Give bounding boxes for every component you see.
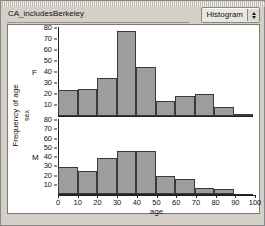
histogram-bar[interactable] xyxy=(156,176,176,195)
y-tick-label: 70 xyxy=(44,126,52,134)
histogram-bar[interactable] xyxy=(97,78,117,117)
plot-type-dropdown[interactable]: Histogram xyxy=(201,7,260,23)
y-tick-mark xyxy=(54,61,57,62)
y-tick-mark xyxy=(54,129,57,130)
y-axis-M: 1020304050607080M xyxy=(32,119,58,195)
histogram-bar[interactable] xyxy=(58,167,78,194)
chevron-down-icon xyxy=(252,16,256,19)
histogram-bar[interactable] xyxy=(136,67,156,117)
y-tick-label: 20 xyxy=(44,172,52,180)
histogram-bar[interactable] xyxy=(234,114,254,116)
chevron-up-icon xyxy=(252,12,256,15)
y-tick-label: 80 xyxy=(44,116,52,124)
x-tick-label: 50 xyxy=(152,199,160,207)
x-axis: age 0102030405060708090100 xyxy=(58,195,255,215)
y-axis-F: 1020304050607080F xyxy=(32,27,58,117)
y-tick-label: 50 xyxy=(44,57,52,65)
histogram-window: CA_includesBerkeley Histogram Frequency … xyxy=(0,0,265,226)
facet-panel-F: 1020304050607080F xyxy=(32,27,257,117)
x-tick-label: 90 xyxy=(231,199,239,207)
y-tick-mark xyxy=(54,94,57,95)
histogram-bar[interactable] xyxy=(117,31,137,116)
y-tick-label: 70 xyxy=(44,35,52,43)
x-tick-label: 100 xyxy=(249,199,262,207)
histogram-bar[interactable] xyxy=(58,90,78,116)
y-tick-mark xyxy=(54,83,57,84)
title-underline xyxy=(7,22,189,23)
group-axis-title-text: sex xyxy=(23,110,30,121)
plot-type-stepper[interactable] xyxy=(247,9,259,21)
y-tick-label: 10 xyxy=(44,101,52,109)
y-tick-label: 50 xyxy=(44,144,52,152)
x-tick-label: 70 xyxy=(192,199,200,207)
page-title: CA_includesBerkeley xyxy=(8,9,84,18)
plot-panel: Frequency of age sex 1020304050607080F 1… xyxy=(7,24,260,214)
y-tick-label: 80 xyxy=(44,24,52,32)
y-tick-mark xyxy=(54,175,57,176)
facet-panel-M: 1020304050607080M xyxy=(32,119,257,195)
histogram-bar[interactable] xyxy=(195,94,215,116)
facet-label-F: F xyxy=(32,68,37,77)
x-tick-label: 0 xyxy=(56,199,60,207)
y-tick-mark xyxy=(54,120,57,121)
plot-type-value: Histogram xyxy=(202,9,247,21)
histogram-bar[interactable] xyxy=(78,171,98,194)
y-tick-label: 60 xyxy=(44,135,52,143)
y-tick-label: 60 xyxy=(44,46,52,54)
x-tick-label: 10 xyxy=(74,199,82,207)
y-tick-label: 30 xyxy=(44,163,52,171)
y-tick-label: 40 xyxy=(44,153,52,161)
y-tick-mark xyxy=(54,184,57,185)
x-tick-label: 30 xyxy=(113,199,121,207)
x-axis-line-F xyxy=(58,116,253,117)
y-tick-mark xyxy=(54,28,57,29)
y-tick-mark xyxy=(54,50,57,51)
histogram-bar[interactable] xyxy=(156,101,176,116)
x-tick-label: 60 xyxy=(172,199,180,207)
facet-label-M: M xyxy=(32,153,39,162)
y-tick-label: 20 xyxy=(44,90,52,98)
y-tick-mark xyxy=(54,166,57,167)
histogram-bar[interactable] xyxy=(175,179,195,194)
histogram-bar[interactable] xyxy=(97,158,117,194)
x-tick-label: 80 xyxy=(211,199,219,207)
x-tick-label: 40 xyxy=(133,199,141,207)
y-tick-label: 40 xyxy=(44,68,52,76)
histogram-bar[interactable] xyxy=(214,107,234,116)
histogram-bar[interactable] xyxy=(175,96,195,116)
plot-area-F xyxy=(58,27,253,117)
y-tick-label: 30 xyxy=(44,79,52,87)
y-tick-mark xyxy=(54,157,57,158)
histogram-bar[interactable] xyxy=(214,189,234,194)
plot-area-M xyxy=(58,119,253,195)
histogram-bar[interactable] xyxy=(117,151,137,194)
x-tick-label: 20 xyxy=(93,199,101,207)
y-axis-title-text: Frequency of age xyxy=(11,84,20,146)
y-tick-mark xyxy=(54,105,57,106)
histogram-bar[interactable] xyxy=(78,89,98,117)
y-tick-mark xyxy=(54,39,57,40)
y-tick-mark xyxy=(54,147,57,148)
histogram-bar[interactable] xyxy=(136,151,156,194)
histogram-bar[interactable] xyxy=(195,188,215,194)
window-header: CA_includesBerkeley Histogram xyxy=(1,7,265,23)
y-tick-label: 10 xyxy=(44,181,52,189)
y-tick-mark xyxy=(54,72,57,73)
y-tick-mark xyxy=(54,138,57,139)
x-axis-title: age xyxy=(58,207,255,216)
group-axis-title: sex xyxy=(21,85,32,145)
